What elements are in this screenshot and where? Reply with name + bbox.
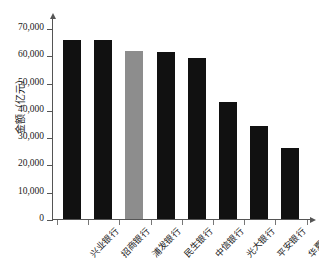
y-tick: 70,000 bbox=[52, 29, 58, 30]
y-tick-label: 20,000 bbox=[18, 158, 44, 168]
y-tick-label: 60,000 bbox=[18, 49, 44, 59]
x-axis-label: 民生银行 bbox=[180, 225, 215, 260]
x-tick-mark bbox=[307, 220, 308, 225]
y-tick: 40,000 bbox=[52, 111, 58, 112]
y-tick-mark bbox=[47, 220, 53, 221]
x-axis-label: 浦发银行 bbox=[149, 225, 184, 260]
y-tick-label: 0 bbox=[39, 213, 44, 223]
y-tick-mark bbox=[47, 193, 53, 194]
y-tick-mark bbox=[47, 111, 53, 112]
x-tick-mark bbox=[275, 220, 276, 225]
x-axis-label: 兴业银行 bbox=[87, 225, 122, 260]
bar bbox=[157, 52, 175, 219]
y-tick-mark bbox=[47, 138, 53, 139]
y-tick-label: 10,000 bbox=[18, 186, 44, 196]
y-tick: 10,000 bbox=[52, 193, 58, 194]
bar bbox=[219, 102, 237, 219]
bar bbox=[250, 126, 268, 219]
y-tick-mark bbox=[47, 29, 53, 30]
bar bbox=[63, 40, 81, 219]
y-axis-line bbox=[52, 18, 53, 220]
bar bbox=[125, 51, 143, 219]
x-tick-mark bbox=[57, 220, 58, 225]
bar bbox=[281, 148, 299, 219]
x-tick-mark bbox=[119, 220, 120, 225]
x-tick-mark bbox=[88, 220, 89, 225]
x-axis-label: 招商银行 bbox=[118, 225, 153, 260]
plot-area: 010,00020,00030,00040,00050,00060,00070,… bbox=[52, 18, 314, 220]
y-tick: 30,000 bbox=[52, 138, 58, 139]
x-tick-mark bbox=[213, 220, 214, 225]
y-tick-mark bbox=[47, 84, 53, 85]
y-tick-label: 30,000 bbox=[18, 131, 44, 141]
x-axis-label: 中信银行 bbox=[211, 225, 246, 260]
y-tick-mark bbox=[47, 165, 53, 166]
x-axis-label: 光大银行 bbox=[243, 225, 278, 260]
x-tick-mark bbox=[151, 220, 152, 225]
x-tick-mark bbox=[182, 220, 183, 225]
x-tick-mark bbox=[244, 220, 245, 225]
y-tick-mark bbox=[47, 56, 53, 57]
y-tick-label: 70,000 bbox=[18, 22, 44, 32]
y-tick: 20,000 bbox=[52, 165, 58, 166]
bar bbox=[188, 58, 206, 219]
y-tick: 50,000 bbox=[52, 84, 58, 85]
bar bbox=[94, 40, 112, 219]
y-tick: 60,000 bbox=[52, 56, 58, 57]
y-tick-label: 50,000 bbox=[18, 77, 44, 87]
x-axis-label: 平安银行 bbox=[274, 225, 309, 260]
bar-chart: 金额（亿元） 010,00020,00030,00040,00050,00060… bbox=[0, 0, 319, 277]
x-axis-label: 华夏银行 bbox=[305, 225, 319, 260]
y-tick-label: 40,000 bbox=[18, 104, 44, 114]
